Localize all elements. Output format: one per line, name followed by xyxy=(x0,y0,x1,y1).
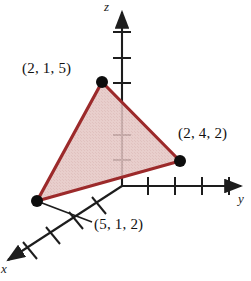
vertex-dot-5-1-2 xyxy=(31,195,43,207)
vertex-dot-2-4-2 xyxy=(174,155,186,167)
vertex-label-2-4-2: (2, 4, 2) xyxy=(178,125,227,142)
vertex-label-5-1-2: (5, 1, 2) xyxy=(94,216,143,233)
x-axis-label: x xyxy=(1,261,7,277)
coordinate-figure: z y x (2, 1, 5) (2, 4, 2) (5, 1, 2) xyxy=(0,0,251,281)
triangle-shape xyxy=(37,82,180,201)
y-axis xyxy=(122,177,241,195)
leader-line-512 xyxy=(42,203,92,222)
vertex-dot-2-1-5 xyxy=(96,76,108,88)
y-axis-label: y xyxy=(238,191,244,207)
z-axis-label: z xyxy=(104,0,109,15)
vertex-label-2-1-5: (2, 1, 5) xyxy=(22,60,71,77)
